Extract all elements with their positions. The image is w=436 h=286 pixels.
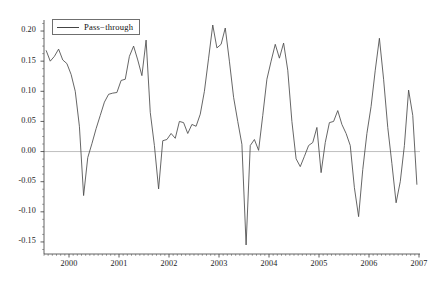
y-axis-ticks bbox=[41, 24, 45, 250]
legend-line-swatch bbox=[57, 27, 79, 28]
y-tick-label: 0.15 bbox=[2, 57, 36, 65]
y-tick-label: -0.10 bbox=[2, 207, 36, 215]
x-tick-label: 2004 bbox=[249, 260, 289, 268]
y-tick-label: -0.15 bbox=[2, 237, 36, 245]
x-tick-label: 2006 bbox=[349, 260, 389, 268]
y-tick-label: -0.05 bbox=[2, 177, 36, 185]
series-pass-through bbox=[46, 25, 417, 245]
chart-figure: 0.200.150.100.050.00-0.05-0.10-0.15 2000… bbox=[0, 0, 436, 286]
x-tick-label: 2007 bbox=[399, 260, 436, 268]
chart-canvas bbox=[0, 0, 436, 286]
x-tick-label: 2000 bbox=[49, 260, 89, 268]
x-tick-label: 2003 bbox=[199, 260, 239, 268]
x-tick-label: 2001 bbox=[99, 260, 139, 268]
legend-label-pass-through: Pass−through bbox=[84, 22, 133, 32]
chart-legend: Pass−through bbox=[52, 19, 140, 35]
x-tick-label: 2002 bbox=[149, 260, 189, 268]
y-tick-label: 0.05 bbox=[2, 117, 36, 125]
y-tick-label: 0.00 bbox=[2, 147, 36, 155]
y-tick-label: 0.20 bbox=[2, 26, 36, 34]
x-tick-label: 2005 bbox=[299, 260, 339, 268]
x-axis-ticks bbox=[44, 254, 419, 258]
y-tick-label: 0.10 bbox=[2, 87, 36, 95]
